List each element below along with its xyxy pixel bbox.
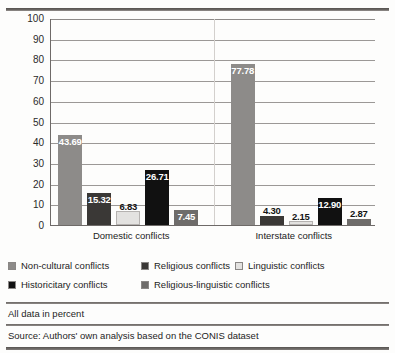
legend-item[interactable]: Non-cultural conflicts bbox=[8, 260, 109, 271]
bar-value-label: 12.90 bbox=[318, 198, 341, 210]
legend-item[interactable]: Religious conflicts bbox=[141, 260, 230, 271]
chart-area: 1009080706050403020100 43.6915.326.8326.… bbox=[0, 14, 395, 258]
plot-area: 43.6915.326.8326.717.4577.784.302.1512.9… bbox=[50, 19, 375, 226]
bar: 43.69 bbox=[58, 135, 82, 225]
legend-label: Religious conflicts bbox=[154, 260, 230, 271]
bar-value-label: 7.45 bbox=[177, 210, 195, 222]
y-axis-tick-70: 70 bbox=[0, 76, 44, 86]
y-axis-tick-90: 90 bbox=[0, 35, 44, 45]
bar-value-label: 2.87 bbox=[350, 207, 368, 219]
bar-value-label: 2.15 bbox=[292, 210, 310, 222]
legend-label: Religious-linguistic conflicts bbox=[154, 279, 270, 290]
bar: 6.83 bbox=[116, 211, 140, 225]
bar: 26.71 bbox=[145, 170, 169, 225]
x-axis-labels: Domestic conflictsInterstate conflicts bbox=[50, 230, 375, 248]
bar: 2.87 bbox=[347, 219, 371, 225]
legend-swatch-icon bbox=[8, 281, 16, 289]
bar-value-label: 77.78 bbox=[231, 64, 254, 76]
bar: 77.78 bbox=[231, 64, 255, 225]
footnote-source: Source: Authors' own analysis based on t… bbox=[8, 330, 259, 342]
y-axis-tick-100: 100 bbox=[0, 14, 44, 24]
legend-item[interactable]: Linguistic conflicts bbox=[235, 260, 325, 271]
legend-item[interactable]: Religious-linguistic conflicts bbox=[141, 279, 270, 290]
bar-value-label: 4.30 bbox=[263, 204, 281, 216]
bar: 4.30 bbox=[260, 216, 284, 225]
y-axis-tick-20: 20 bbox=[0, 180, 44, 190]
y-axis-tick-30: 30 bbox=[0, 159, 44, 169]
y-axis-tick-60: 60 bbox=[0, 97, 44, 107]
bar: 2.15 bbox=[289, 221, 313, 225]
y-axis-tick-0: 0 bbox=[0, 221, 44, 231]
bar: 15.32 bbox=[87, 193, 111, 225]
x-axis-category-label: Domestic conflicts bbox=[50, 230, 213, 242]
y-axis-tick-50: 50 bbox=[0, 118, 44, 128]
legend-swatch-icon bbox=[141, 281, 149, 289]
divider-rule-1 bbox=[6, 302, 389, 304]
bar-value-label: 15.32 bbox=[88, 193, 111, 205]
legend-swatch-icon bbox=[8, 262, 16, 270]
legend-label: Historicitary conflicts bbox=[21, 279, 108, 290]
footnote-units: All data in percent bbox=[8, 308, 84, 320]
y-axis-labels: 1009080706050403020100 bbox=[0, 14, 44, 226]
bar: 7.45 bbox=[174, 210, 198, 225]
chart-legend: Non-cultural conflictsReligious conflict… bbox=[8, 260, 387, 298]
legend-swatch-icon bbox=[141, 262, 149, 270]
legend-label: Linguistic conflicts bbox=[248, 260, 325, 271]
bar: 12.90 bbox=[318, 198, 342, 225]
legend-row: Non-cultural conflictsReligious conflict… bbox=[8, 260, 387, 277]
bar-value-label: 6.83 bbox=[119, 200, 137, 212]
top-rule bbox=[6, 8, 389, 11]
legend-label: Non-cultural conflicts bbox=[21, 260, 109, 271]
y-axis-tick-40: 40 bbox=[0, 138, 44, 148]
divider-rule-2 bbox=[6, 324, 389, 326]
legend-row: Historicitary conflictsReligious-linguis… bbox=[8, 279, 387, 296]
bar-value-label: 43.69 bbox=[59, 135, 82, 147]
legend-swatch-icon bbox=[235, 262, 243, 270]
y-axis-tick-80: 80 bbox=[0, 55, 44, 65]
legend-item[interactable]: Historicitary conflicts bbox=[8, 279, 108, 290]
y-axis-tick-10: 10 bbox=[0, 200, 44, 210]
group-separator bbox=[214, 19, 215, 225]
bar-value-label: 26.71 bbox=[146, 170, 169, 182]
x-axis-category-label: Interstate conflicts bbox=[213, 230, 376, 242]
bottom-rule bbox=[6, 347, 389, 350]
chart-figure: 1009080706050403020100 43.6915.326.8326.… bbox=[0, 0, 395, 353]
